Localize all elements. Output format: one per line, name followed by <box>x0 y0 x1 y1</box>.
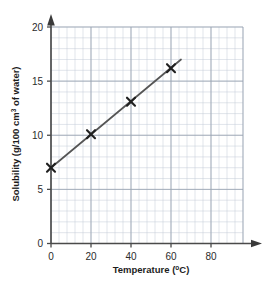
y-tick-label: 5 <box>37 184 43 195</box>
y-tick-label: 20 <box>32 22 44 33</box>
x-tick-label: 0 <box>48 251 54 262</box>
x-tick-label: 20 <box>85 251 97 262</box>
y-tick-labels: 05101520 <box>32 22 44 250</box>
y-axis-title: Solubility (g/100 cm3 of water) <box>10 66 21 201</box>
axes <box>47 14 262 247</box>
x-tick-labels: 020406080 <box>48 251 217 262</box>
y-tick-label: 15 <box>32 76 44 87</box>
chart-canvas: 020406080 05101520 Temperature (oC) Solu… <box>0 0 270 285</box>
x-axis-arrowhead <box>251 240 262 248</box>
x-axis-title: Temperature (oC) <box>113 264 190 275</box>
y-tick-label: 10 <box>32 130 44 141</box>
tick-marks <box>47 27 211 248</box>
x-tick-label: 60 <box>165 251 177 262</box>
y-axis-arrowhead <box>47 14 55 26</box>
y-tick-label: 0 <box>37 238 43 249</box>
solubility-temperature-chart: 020406080 05101520 Temperature (oC) Solu… <box>0 0 270 285</box>
x-tick-label: 80 <box>205 251 217 262</box>
x-tick-label: 40 <box>125 251 137 262</box>
